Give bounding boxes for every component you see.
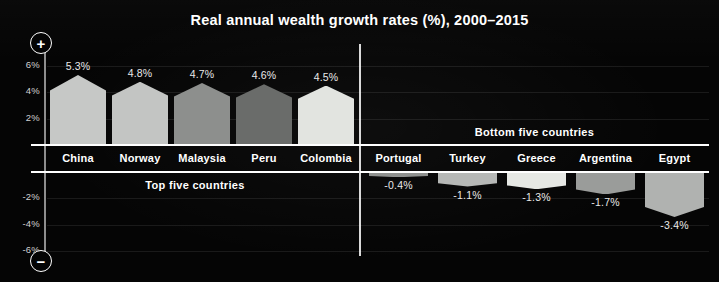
country-label-portugal: Portugal xyxy=(364,148,433,169)
bar-egypt[interactable] xyxy=(645,172,704,217)
country-label-turkey: Turkey xyxy=(433,148,502,169)
minus-icon[interactable]: − xyxy=(30,250,52,272)
country-label-colombia: Colombia xyxy=(295,148,357,169)
minus-icon-glyph: − xyxy=(31,254,51,269)
bar-china[interactable] xyxy=(50,75,106,145)
gridline xyxy=(47,251,709,252)
bar-greece[interactable] xyxy=(507,172,566,189)
bar-value-colombia: 4.5% xyxy=(286,71,366,83)
bar-turkey[interactable] xyxy=(438,172,497,187)
bottom-five-section-label: Bottom five countries xyxy=(360,122,709,142)
country-label-greece: Greece xyxy=(502,148,571,169)
bar-norway[interactable] xyxy=(112,82,168,145)
y-axis-tick-0: 6% xyxy=(2,59,40,70)
y-axis-tick-4: -4% xyxy=(2,218,40,229)
country-label-argentina: Argentina xyxy=(571,148,640,169)
chart-container: Real annual wealth growth rates (%), 200… xyxy=(0,0,719,282)
plus-icon[interactable]: + xyxy=(30,32,52,54)
country-label-china: China xyxy=(47,148,109,169)
zero-baseline-right xyxy=(360,171,709,173)
bar-peru[interactable] xyxy=(236,84,292,145)
country-label-malaysia: Malaysia xyxy=(171,148,233,169)
name-band-bottom-rule-left xyxy=(31,171,359,173)
zero-baseline-left xyxy=(31,144,709,146)
bar-value-argentina: -1.7% xyxy=(564,196,647,208)
plus-icon-glyph: + xyxy=(31,36,51,51)
bar-colombia[interactable] xyxy=(298,86,354,145)
country-label-egypt: Egypt xyxy=(640,148,709,169)
y-axis-tick-2: 2% xyxy=(2,112,40,123)
bar-value-egypt: -3.4% xyxy=(633,219,716,231)
chart-title: Real annual wealth growth rates (%), 200… xyxy=(0,12,719,28)
gridline xyxy=(47,225,709,226)
country-label-norway: Norway xyxy=(109,148,171,169)
top-five-section-label: Top five countries xyxy=(31,175,359,195)
y-axis-line xyxy=(44,44,46,260)
country-label-peru: Peru xyxy=(233,148,295,169)
bar-argentina[interactable] xyxy=(576,172,635,194)
y-axis-tick-1: 4% xyxy=(2,85,40,96)
